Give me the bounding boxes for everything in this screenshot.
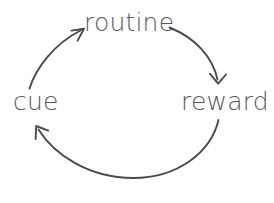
node-label-reward: reward	[181, 89, 269, 114]
arrow-cue-to-routine-curve	[30, 31, 81, 89]
node-label-cue: cue	[13, 89, 59, 114]
node-label-routine: routine	[84, 10, 174, 35]
arrow-routine-to-reward	[170, 28, 227, 84]
arrow-reward-to-cue-curve	[39, 120, 219, 178]
arrow-routine-to-reward-curve	[170, 28, 218, 80]
arrow-cue-to-routine	[30, 29, 85, 89]
arrow-reward-to-cue-head	[36, 126, 49, 139]
arrow-reward-to-cue	[36, 120, 219, 178]
habit-loop-diagram: routine cue reward	[0, 0, 274, 203]
